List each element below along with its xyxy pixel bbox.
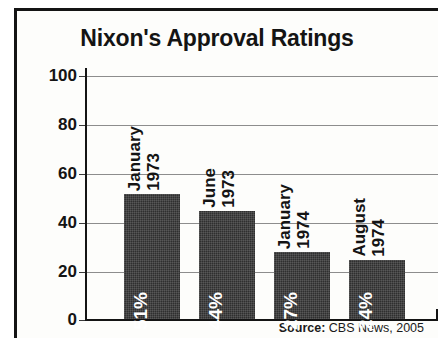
y-axis-line xyxy=(85,68,87,321)
bar-caption-line-year-2: 1974 xyxy=(295,211,312,249)
x-axis-end-cap xyxy=(436,309,438,319)
plot-area: 100 80 60 40 20 0 51% January 1973 44% J… xyxy=(85,68,438,321)
gridline-100 xyxy=(87,76,438,77)
bar-value-june-1973: 44% xyxy=(205,292,227,330)
bar-january-1974[interactable]: 27% xyxy=(274,252,330,319)
ytick-mark-60 xyxy=(79,174,85,175)
ytick-label-20: 20 xyxy=(58,262,77,282)
chart-title: Nixon's Approval Ratings xyxy=(17,25,417,52)
bar-august-1974[interactable]: 24% xyxy=(349,260,405,319)
ytick-mark-100 xyxy=(79,76,85,77)
bar-value-january-1973: 51% xyxy=(130,292,152,330)
ytick-label-60: 60 xyxy=(58,164,77,184)
ytick-mark-0 xyxy=(79,320,85,321)
ytick-mark-80 xyxy=(79,125,85,126)
bar-value-august-1974: 24% xyxy=(355,292,377,330)
ytick-mark-20 xyxy=(79,272,85,273)
bar-caption-line-month-2: January xyxy=(276,184,293,249)
bar-caption-january-1974: January 1974 xyxy=(276,184,312,249)
bar-june-1973[interactable]: 44% xyxy=(199,211,255,319)
bar-caption-line-month-3: August xyxy=(351,198,368,257)
ytick-label-40: 40 xyxy=(58,213,77,233)
bar-caption-line-month-0: January xyxy=(126,126,143,191)
ytick-label-0: 0 xyxy=(68,310,77,330)
chart-figure: Nixon's Approval Ratings 100 80 60 40 20… xyxy=(14,8,438,338)
bar-caption-august-1974: August 1974 xyxy=(351,198,387,257)
bar-value-january-1974: 27% xyxy=(280,292,302,330)
ytick-label-80: 80 xyxy=(58,115,77,135)
ytick-mark-40 xyxy=(79,223,85,224)
bar-caption-line-month-1: June xyxy=(201,168,218,208)
bar-caption-line-year-0: 1973 xyxy=(145,153,162,191)
bar-caption-june-1973: June 1973 xyxy=(201,168,237,208)
bar-caption-line-year-3: 1974 xyxy=(370,219,387,257)
ytick-label-100: 100 xyxy=(49,66,77,86)
bar-january-1973[interactable]: 51% xyxy=(124,194,180,319)
bar-caption-line-year-1: 1973 xyxy=(220,170,237,208)
bar-caption-january-1973: January 1973 xyxy=(126,126,162,191)
